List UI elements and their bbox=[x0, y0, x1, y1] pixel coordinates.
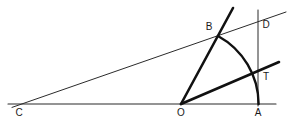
label-point-b: B bbox=[206, 21, 213, 32]
geometry-figure: C O A B D T bbox=[0, 0, 290, 130]
figure-canvas: C O A B D T bbox=[0, 0, 290, 130]
label-point-c: C bbox=[15, 107, 22, 118]
label-point-a: A bbox=[255, 107, 262, 118]
ray-ot bbox=[181, 62, 279, 104]
label-point-o: O bbox=[177, 107, 185, 118]
arc-from-b-to-a bbox=[218, 36, 259, 104]
label-point-t: T bbox=[263, 71, 269, 82]
label-point-d: D bbox=[262, 19, 269, 30]
